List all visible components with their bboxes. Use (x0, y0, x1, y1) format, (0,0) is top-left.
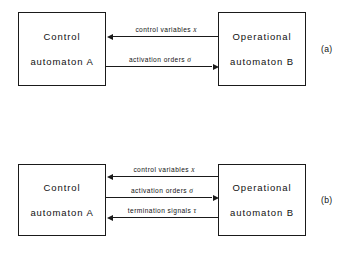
panel-b-arrow-label-activation-orders: activation orders σ (106, 187, 218, 195)
panel-b-control-automaton-block: Control automaton A (18, 164, 106, 236)
panel-a-arrow-label-control-variables: control variables x (110, 26, 222, 34)
block-label-line2: automaton A (30, 208, 93, 218)
arrowhead-left-icon (107, 215, 113, 221)
panel-a: Control automaton A Operational automato… (0, 0, 355, 128)
panel-a-operational-automaton-block: Operational automaton B (218, 12, 306, 86)
panel-b-arrow-label-termination-signals: termination signals τ (106, 207, 218, 215)
panel-b-tag: (b) (321, 196, 332, 205)
arrow-label-symbol: τ (194, 206, 197, 215)
block-label-line2: automaton B (230, 57, 294, 67)
block-label-line1: Operational (232, 183, 291, 193)
block-label-line1: Control (44, 32, 81, 42)
arrow-label-text: control variables (133, 166, 189, 173)
arrowhead-left-icon (107, 34, 113, 40)
block-label-line2: automaton B (230, 208, 294, 218)
figure-canvas: Control automaton A Operational automato… (0, 0, 355, 256)
arrowhead-left-icon (107, 174, 113, 180)
arrow-label-symbol: x (191, 165, 194, 174)
block-label-line2: automaton A (30, 57, 93, 67)
arrowhead-right-icon (213, 64, 219, 70)
panel-b-arrow-control-variables (113, 176, 218, 177)
arrow-label-text: control variables (135, 26, 191, 33)
panel-a-arrow-activation-orders (106, 66, 212, 67)
panel-a-arrow-label-activation-orders: activation orders σ (104, 56, 216, 64)
panel-b-operational-automaton-block: Operational automaton B (218, 164, 306, 236)
arrow-label-symbol: σ (189, 186, 193, 195)
block-label-line1: Operational (232, 32, 291, 42)
arrow-label-text: activation orders (131, 187, 187, 194)
arrow-label-symbol: x (193, 25, 196, 34)
panel-a-control-automaton-block: Control automaton A (18, 12, 106, 86)
panel-b-arrow-termination-signals (113, 217, 218, 218)
arrowhead-right-icon (213, 195, 219, 201)
panel-b: Control automaton A Operational automato… (0, 128, 355, 256)
panel-b-arrow-activation-orders (106, 197, 212, 198)
arrow-label-text: termination signals (128, 207, 192, 214)
block-label-line1: Control (44, 183, 81, 193)
panel-b-arrow-label-control-variables: control variables x (108, 166, 220, 174)
arrow-label-symbol: σ (187, 55, 191, 64)
panel-a-arrow-control-variables (113, 36, 218, 37)
arrow-label-text: activation orders (129, 56, 185, 63)
panel-a-tag: (a) (321, 45, 332, 54)
